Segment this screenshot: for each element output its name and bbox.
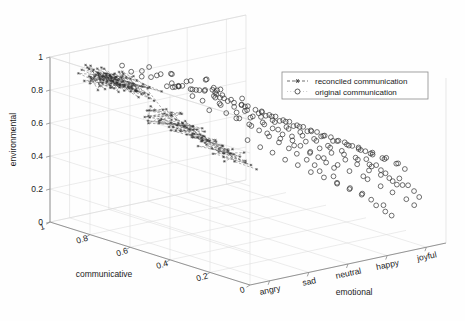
original-marker: [304, 157, 309, 162]
x-tick-label: 0: [238, 284, 246, 295]
z-tick: [46, 57, 50, 58]
original-marker: [234, 116, 239, 121]
original-marker: [207, 108, 212, 113]
reconciled-marker: [84, 64, 87, 67]
original-marker: [218, 87, 223, 92]
x-axis-title: communicative: [76, 269, 133, 279]
grid-leftwall-horz: [50, 156, 250, 219]
reconciled-marker: [239, 155, 242, 158]
original-marker: [390, 190, 395, 195]
y-tick-label: angry: [259, 283, 283, 297]
original-marker: [378, 173, 383, 178]
reconciled-marker: [244, 160, 247, 163]
reconciled-marker: [201, 127, 204, 130]
original-marker: [270, 150, 275, 155]
original-marker: [283, 157, 288, 162]
original-marker: [400, 183, 405, 188]
legend-label-original: original communication: [315, 88, 397, 97]
original-marker: [300, 133, 305, 138]
reconciled-marker: [170, 111, 173, 114]
grid-floor-v: [109, 209, 309, 272]
reconciled-marker: [185, 133, 188, 136]
reconciled-marker: [165, 108, 168, 111]
original-marker: [324, 160, 329, 165]
axes-box: [50, 15, 446, 285]
reconciled-marker: [77, 72, 80, 75]
z-tick-label: 1: [38, 52, 43, 62]
z-axis-title: environmental: [8, 113, 18, 167]
legend-label-reconciled: reconciled communication: [315, 77, 408, 86]
original-marker: [329, 151, 334, 156]
original-marker: [277, 119, 282, 124]
y-axis-title: emotional: [336, 287, 373, 297]
original-marker: [301, 124, 306, 129]
original-marker: [365, 177, 370, 182]
original-marker: [361, 174, 366, 179]
original-marker: [347, 169, 352, 174]
original-marker: [331, 174, 336, 179]
grid-floor-v: [187, 193, 387, 256]
grid-lines: [50, 15, 446, 285]
original-marker: [328, 135, 333, 140]
figure-canvas: 00.20.40.60.8110.80.60.40.20angrysadneut…: [0, 0, 465, 321]
scatter3d-plot: 00.20.40.60.8110.80.60.40.20angrysadneut…: [0, 0, 465, 321]
original-marker: [369, 197, 374, 202]
x-tick-label: 0.8: [75, 233, 89, 246]
legend[interactable]: reconciled communicationoriginal communi…: [282, 72, 428, 99]
x-tick-label: 0.4: [155, 258, 169, 271]
original-marker: [374, 203, 379, 208]
original-marker: [379, 168, 384, 173]
original-marker: [367, 168, 372, 173]
original-marker: [298, 143, 303, 148]
reconciled-marker: [100, 66, 103, 69]
original-marker: [263, 113, 268, 118]
x-tick-label: 0.6: [115, 245, 129, 258]
original-marker: [240, 96, 245, 101]
z-tick-label: 0.2: [31, 184, 43, 194]
y-tick-label: sad: [301, 275, 317, 288]
original-marker: [381, 203, 386, 208]
grid-leftwall-horz: [50, 90, 250, 153]
original-marker: [383, 171, 388, 176]
reconciled-marker: [147, 122, 150, 125]
z-tick: [46, 90, 50, 91]
z-tick: [46, 123, 50, 124]
z-tick-label: 0.8: [31, 85, 43, 95]
reconciled-marker: [143, 116, 146, 119]
reconciled-marker: [83, 80, 86, 83]
original-marker: [259, 115, 264, 120]
original-marker: [140, 69, 145, 74]
original-marker: [321, 156, 326, 161]
x-tick-label: 0.2: [195, 270, 209, 283]
original-marker: [406, 183, 411, 188]
original-marker: [317, 146, 322, 151]
reconciled-marker: [255, 168, 258, 171]
y-tick-label: happy: [375, 257, 400, 272]
original-marker: [258, 145, 263, 150]
grid-floor-v: [226, 184, 426, 247]
original-marker: [412, 189, 417, 194]
original-marker: [350, 143, 355, 148]
original-marker: [335, 163, 340, 168]
original-marker: [412, 203, 417, 208]
original-marker: [402, 167, 407, 172]
original-marker: [383, 209, 388, 214]
reconciled-marker: [132, 75, 135, 78]
original-marker: [316, 155, 321, 160]
original-marker: [129, 69, 134, 74]
original-marker: [218, 103, 223, 108]
circle-icon: [295, 89, 300, 94]
z-tick-label: 0.4: [31, 151, 43, 161]
reconciled-marker: [80, 69, 83, 72]
original-marker: [217, 101, 222, 106]
original-marker: [287, 146, 292, 151]
original-marker: [294, 151, 299, 156]
original-marker: [417, 195, 422, 200]
original-marker: [164, 84, 169, 89]
original-marker: [342, 152, 347, 157]
original-marker: [390, 179, 395, 184]
z-tick-label: 0.6: [31, 118, 43, 128]
original-marker: [315, 130, 320, 135]
original-marker: [378, 184, 383, 189]
reconciled-marker: [129, 78, 132, 81]
